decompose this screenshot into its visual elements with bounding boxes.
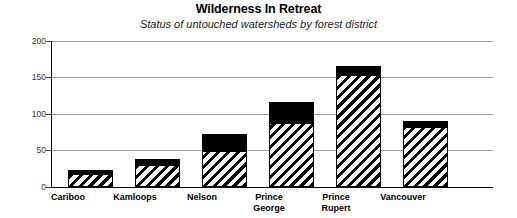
y-tick-label-0: 0 xyxy=(2,183,46,192)
bar-nelson[interactable] xyxy=(202,134,247,187)
chart-subtitle: Status of untouched watersheds by forest… xyxy=(0,18,517,30)
bar-prince-rupert-hatch-segment xyxy=(336,76,381,187)
bar-cariboo-hatch-segment xyxy=(68,175,113,187)
category-label-vancouver: Vancouver xyxy=(360,192,446,203)
bar-cariboo-solid-segment xyxy=(68,170,113,175)
bar-kamloops[interactable] xyxy=(135,159,180,187)
bar-vancouver-hatch-segment xyxy=(403,128,448,187)
bar-prince-rupert-solid-segment xyxy=(336,66,381,76)
bar-nelson-hatch-segment xyxy=(202,152,247,187)
bar-vancouver-solid-segment xyxy=(403,121,448,128)
gridline-baseline-0 xyxy=(52,187,493,188)
bar-vancouver[interactable] xyxy=(403,121,448,187)
y-tick-label-200: 200 xyxy=(2,37,46,46)
bar-prince-rupert[interactable] xyxy=(336,66,381,187)
y-tick-label-100: 100 xyxy=(2,110,46,119)
bar-prince-george[interactable] xyxy=(269,102,314,187)
gridline-200 xyxy=(52,41,493,42)
y-tick-label-150: 150 xyxy=(2,73,46,82)
bar-prince-george-hatch-segment xyxy=(269,124,314,187)
chart-title: Wilderness In Retreat xyxy=(0,2,517,16)
chart-figure: Wilderness In Retreat Status of untouche… xyxy=(0,0,517,218)
gridline-150 xyxy=(52,77,493,78)
bar-nelson-solid-segment xyxy=(202,134,247,152)
y-axis-labels: 200 150 100 50 0 xyxy=(0,0,46,218)
bar-prince-george-solid-segment xyxy=(269,102,314,124)
bar-cariboo[interactable] xyxy=(68,170,113,187)
plot-area xyxy=(52,41,493,187)
y-tick-label-50: 50 xyxy=(2,146,46,155)
bar-kamloops-solid-segment xyxy=(135,159,180,166)
bar-kamloops-hatch-segment xyxy=(135,166,180,187)
